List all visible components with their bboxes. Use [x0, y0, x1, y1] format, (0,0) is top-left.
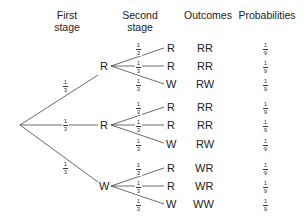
denominator: 9 [264, 146, 267, 152]
denominator: 9 [264, 188, 267, 194]
numerator: 1 [264, 162, 267, 168]
numerator: 1 [64, 79, 67, 85]
denominator: 9 [264, 86, 267, 92]
numerator: 1 [137, 162, 140, 168]
denominator: 3 [137, 170, 140, 176]
leaf-node: W [166, 198, 176, 210]
leaf-node: R [167, 162, 175, 174]
denominator: 3 [64, 169, 67, 175]
leaf-node: R [167, 101, 175, 113]
leaf-node: W [166, 78, 176, 90]
numerator: 1 [264, 138, 267, 144]
numerator: 1 [64, 118, 67, 124]
numerator: 1 [137, 119, 140, 125]
outcome: RR [197, 42, 213, 54]
denominator: 9 [264, 127, 267, 133]
numerator: 1 [264, 42, 267, 48]
denominator: 3 [137, 68, 140, 74]
outcome-probability: 19 [262, 42, 269, 56]
second-stage-prob: 13 [135, 198, 142, 212]
denominator: 9 [264, 50, 267, 56]
outcome-probability: 19 [262, 198, 269, 212]
numerator: 1 [137, 198, 140, 204]
first-stage-prob-3: 13 [62, 161, 69, 175]
first-stage-node-2: R [100, 119, 108, 131]
numerator: 1 [137, 101, 140, 107]
second-stage-prob: 13 [135, 119, 142, 133]
leaf-node: R [167, 180, 175, 192]
denominator: 9 [264, 206, 267, 212]
numerator: 1 [264, 180, 267, 186]
second-stage-prob: 13 [135, 60, 142, 74]
leaf-node: R [167, 42, 175, 54]
outcome: WR [195, 180, 213, 192]
leaf-node: W [166, 138, 176, 150]
denominator: 3 [137, 50, 140, 56]
denominator: 9 [264, 68, 267, 74]
denominator: 9 [264, 109, 267, 115]
outcome: RW [196, 138, 214, 150]
second-stage-prob: 13 [135, 78, 142, 92]
tree-lines [0, 0, 307, 222]
outcome-probability: 19 [262, 78, 269, 92]
denominator: 3 [137, 127, 140, 133]
second-stage-prob: 13 [135, 162, 142, 176]
first-stage-prob-2: 13 [62, 118, 69, 132]
outcome-probability: 19 [262, 162, 269, 176]
outcome-probability: 19 [262, 101, 269, 115]
outcome: WR [195, 162, 213, 174]
outcome: RW [196, 78, 214, 90]
denominator: 3 [137, 109, 140, 115]
numerator: 1 [137, 42, 140, 48]
numerator: 1 [264, 198, 267, 204]
numerator: 1 [264, 119, 267, 125]
denominator: 3 [64, 126, 67, 132]
outcome-probability: 19 [262, 138, 269, 152]
second-stage-prob: 13 [135, 138, 142, 152]
numerator: 1 [64, 161, 67, 167]
denominator: 9 [264, 170, 267, 176]
numerator: 1 [264, 60, 267, 66]
second-stage-prob: 13 [135, 42, 142, 56]
second-stage-prob: 13 [135, 180, 142, 194]
denominator: 3 [137, 86, 140, 92]
outcome-probability: 19 [262, 60, 269, 74]
outcome: RR [197, 101, 213, 113]
numerator: 1 [264, 101, 267, 107]
denominator: 3 [137, 188, 140, 194]
first-stage-node-3: W [99, 180, 109, 192]
outcome-probability: 19 [262, 119, 269, 133]
first-stage-node-1: R [100, 60, 108, 72]
outcome-probability: 19 [262, 180, 269, 194]
outcome: WW [193, 198, 214, 210]
numerator: 1 [264, 78, 267, 84]
denominator: 3 [137, 206, 140, 212]
first-stage-prob-1: 13 [62, 79, 69, 93]
leaf-node: R [167, 119, 175, 131]
denominator: 3 [64, 87, 67, 93]
outcome: RR [197, 60, 213, 72]
numerator: 1 [137, 138, 140, 144]
numerator: 1 [137, 60, 140, 66]
outcome: RR [197, 119, 213, 131]
numerator: 1 [137, 180, 140, 186]
numerator: 1 [137, 78, 140, 84]
denominator: 3 [137, 146, 140, 152]
leaf-node: R [167, 60, 175, 72]
second-stage-prob: 13 [135, 101, 142, 115]
